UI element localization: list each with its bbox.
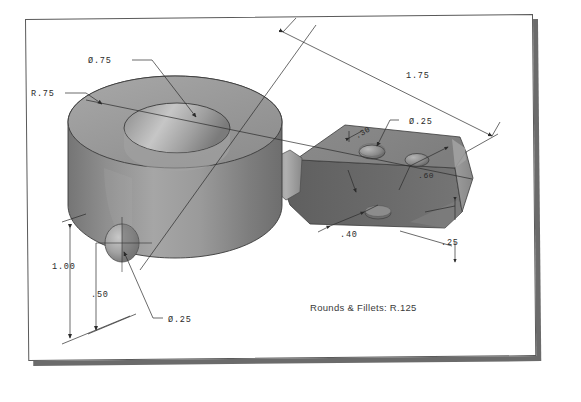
dim-hole-spacing: .40 bbox=[340, 231, 358, 240]
dim-arm-width: .60 bbox=[418, 172, 434, 180]
dim-arm-hole-dia: Ø.25 bbox=[409, 118, 433, 127]
drawing-sheet bbox=[25, 14, 536, 361]
drawing-page: Ø.75 R.75 1.75 Ø.25 .30 .60 .40 .25 1.00… bbox=[0, 0, 581, 402]
dim-side-hole-height: .50 bbox=[91, 291, 109, 300]
dim-boss-radius: R.75 bbox=[31, 90, 55, 99]
dim-bore-dia: Ø.75 bbox=[88, 57, 112, 66]
dim-arm-thickness: .25 bbox=[441, 239, 459, 248]
dim-boss-height: 1.00 bbox=[52, 263, 76, 272]
note-rounds-fillets: Rounds & Fillets: R.125 bbox=[310, 302, 417, 313]
dim-overall-length: 1.75 bbox=[406, 72, 430, 81]
dim-side-hole-dia: Ø.25 bbox=[168, 316, 192, 325]
